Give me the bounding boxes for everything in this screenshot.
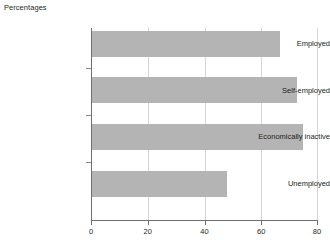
x-axis-tick-20 — [148, 221, 149, 225]
y-axis-line — [91, 28, 92, 221]
y-axis-tick-3 — [86, 162, 91, 163]
bar-unemployed — [91, 171, 227, 197]
y-axis-tick-1 — [86, 68, 91, 69]
x-axis-tick-40 — [205, 221, 206, 225]
x-tick-label-20: 20 — [136, 227, 160, 237]
bar-chart: Percentages Employed Self-employed Econo… — [0, 0, 330, 248]
y-axis-tick-2 — [86, 115, 91, 116]
category-label-unemployed: Unemployed — [246, 179, 330, 189]
category-label-self-employed: Self-employed — [246, 86, 330, 96]
category-label-economically-inactive: Economically inactive — [246, 132, 330, 142]
plot-area — [91, 28, 317, 220]
category-label-employed: Employed — [246, 39, 330, 49]
x-axis-tick-60 — [261, 221, 262, 225]
x-axis-tick-0 — [91, 221, 92, 225]
x-tick-label-80: 80 — [305, 227, 329, 237]
x-tick-label-40: 40 — [193, 227, 217, 237]
x-tick-label-0: 0 — [79, 227, 103, 237]
x-tick-label-60: 60 — [249, 227, 273, 237]
gridline-80 — [317, 28, 318, 220]
x-axis-tick-80 — [317, 221, 318, 225]
chart-title: Percentages — [4, 3, 47, 13]
